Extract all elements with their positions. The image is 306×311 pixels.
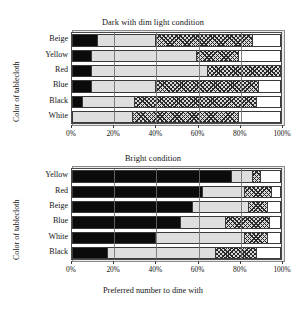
bar-row [72, 96, 281, 108]
bar-segment-white [268, 233, 280, 243]
x-tick-label: 60% [191, 265, 205, 274]
gridline [156, 169, 157, 259]
stacked-bar [72, 50, 281, 62]
x-tick [155, 261, 156, 264]
bar-row [72, 201, 281, 213]
category-label-yellow: Yellow [45, 171, 68, 179]
stacked-bar [72, 232, 281, 244]
stacked-bar [72, 80, 281, 92]
bar-segment-light-gray [108, 248, 216, 258]
category-label-white: White [48, 233, 68, 241]
stacked-bar [72, 34, 281, 46]
bar-segment-cross-hatch [216, 248, 257, 258]
category-label-black: Black [49, 97, 68, 105]
bar-segment-cross-hatch [249, 202, 268, 212]
bar-segment-white [261, 171, 280, 181]
x-tick [113, 125, 114, 128]
bar-row [72, 247, 281, 259]
bar-segment-cross-hatch [208, 66, 280, 76]
x-tick-label: 0% [66, 265, 76, 274]
x-tick-label: 20% [106, 129, 120, 138]
panel-bright-condition: Bright condition Color of tablecloth Yel… [0, 150, 306, 311]
bar-row [72, 65, 281, 77]
category-label-red: Red [55, 187, 68, 195]
bar-segment-solid-black [73, 171, 232, 181]
x-tick [198, 125, 199, 128]
bar-segment-light-gray [73, 112, 133, 122]
bar-segment-cross-hatch [156, 81, 260, 91]
y-axis-label-bottom: Color of tablecloth [12, 200, 21, 260]
x-tick-label: 100% [273, 129, 290, 138]
panel-dark-dim-light: Dark with dim light condition Color of t… [0, 0, 306, 150]
category-label-yellow: Yellow [45, 51, 68, 59]
bar-segment-white [239, 51, 280, 61]
plot-area-top [71, 32, 282, 124]
bar-segment-cross-hatch [197, 51, 238, 61]
bar-segment-white [268, 202, 280, 212]
bar-segment-solid-black [73, 248, 108, 258]
category-label-white: White [48, 112, 68, 120]
bar-row [72, 170, 281, 182]
bar-segment-solid-black [73, 187, 203, 197]
bar-rows-top [72, 33, 281, 123]
chart-title-top: Dark with dim light condition [0, 18, 306, 27]
bar-segment-light-gray [92, 66, 208, 76]
gridline [114, 169, 115, 259]
stacked-bar [72, 65, 281, 77]
bar-segment-solid-black [73, 51, 92, 61]
bar-segment-white [270, 217, 280, 227]
bar-row [72, 50, 281, 62]
bar-row [72, 186, 281, 198]
chart-title-bottom: Bright condition [0, 154, 306, 163]
bar-segment-solid-black [73, 202, 193, 212]
bar-row [72, 34, 281, 46]
bar-segment-cross-hatch [245, 187, 272, 197]
bar-segment-solid-black [73, 81, 92, 91]
bar-segment-solid-black [73, 66, 92, 76]
bar-segment-white [239, 112, 280, 122]
x-tick [282, 261, 283, 264]
y-axis-label-top: Color of tablecloth [12, 62, 21, 122]
x-tick [71, 261, 72, 264]
bar-segment-light-gray [232, 171, 253, 181]
bar-row [72, 80, 281, 92]
category-label-black: Black [49, 248, 68, 256]
bar-segment-light-gray [203, 187, 244, 197]
bar-segment-white [259, 81, 280, 91]
bar-segment-white [257, 97, 280, 107]
bar-row [72, 111, 281, 123]
bar-segment-white [257, 248, 280, 258]
bar-rows-bottom [72, 169, 281, 259]
category-label-beige: Beige [49, 202, 68, 210]
gridline [199, 169, 200, 259]
x-tick-label: 20% [106, 265, 120, 274]
bar-segment-light-gray [83, 97, 135, 107]
x-tick [198, 261, 199, 264]
stacked-bar [72, 216, 281, 228]
bar-segment-solid-black [73, 97, 83, 107]
x-tick-label: 60% [191, 129, 205, 138]
gridline [241, 169, 242, 259]
category-label-blue: Blue [53, 217, 68, 225]
gridline [241, 33, 242, 123]
bar-segment-cross-hatch [156, 35, 253, 45]
stacked-bar [72, 96, 281, 108]
x-tick [240, 261, 241, 264]
bar-segment-cross-hatch [245, 233, 268, 243]
x-tick-label: 0% [66, 129, 76, 138]
bar-segment-solid-black [73, 217, 181, 227]
x-tick [240, 125, 241, 128]
x-tick [113, 261, 114, 264]
stacked-bar [72, 247, 281, 259]
gridline [114, 33, 115, 123]
bar-segment-cross-hatch [253, 171, 261, 181]
bar-segment-solid-black [73, 35, 98, 45]
figure-stacked-bar-charts: Dark with dim light condition Color of t… [0, 0, 306, 311]
bar-segment-cross-hatch [133, 112, 239, 122]
bar-segment-light-gray [92, 81, 156, 91]
bar-segment-white [253, 35, 280, 45]
category-label-red: Red [55, 66, 68, 74]
bar-row [72, 216, 281, 228]
bar-segment-light-gray [92, 51, 198, 61]
category-label-beige: Beige [49, 35, 68, 43]
